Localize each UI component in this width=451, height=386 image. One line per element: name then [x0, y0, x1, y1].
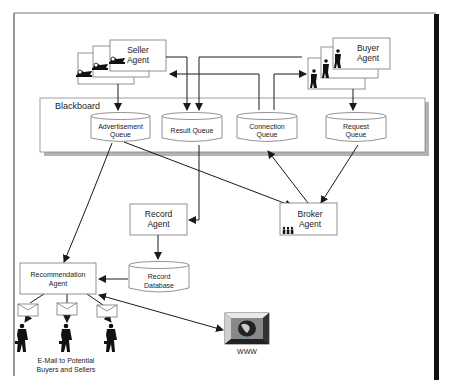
buyer-agent-line1: Buyer [357, 43, 379, 53]
recommendation-agent-line2: Agent [49, 280, 67, 288]
buyer-agent-line2: Agent [357, 53, 380, 63]
broker-agent-line2: Agent [299, 219, 322, 229]
advertisement-queue-line1: Advertisement [98, 123, 143, 130]
www-node: WWW [225, 313, 269, 355]
blackboard-architecture-diagram: Blackboard Advertisement Queue Result Qu… [0, 0, 451, 386]
record-database-line1: Record [148, 273, 171, 280]
record-agent-line1: Record [145, 209, 173, 219]
email-caption-line1: E-Mail to Potential [38, 357, 95, 364]
blackboard-label: Blackboard [55, 101, 100, 111]
request-queue-line1: Request [343, 123, 369, 131]
record-agent-line2: Agent [147, 219, 170, 229]
record-database: Record Database [129, 262, 189, 293]
record-agent: Record Agent [130, 204, 187, 235]
connection-queue-line2: Queue [256, 131, 277, 139]
email-recipients [15, 324, 117, 352]
broker-agent: Broker Agent [280, 203, 337, 235]
email-envelopes [18, 303, 117, 317]
buyer-agent: Buyer Agent [308, 38, 390, 89]
record-database-line2: Database [144, 282, 174, 289]
globe-monitor-icon [225, 313, 269, 344]
connection-queue-line1: Connection [249, 123, 285, 130]
seller-agent: Seller Agent [76, 40, 166, 84]
recommendation-agent: Recommendation Agent [20, 263, 96, 294]
connection-queue: Connection Queue [237, 113, 297, 142]
advertisement-queue-line2: Queue [110, 131, 131, 139]
seller-agent-line1: Seller [127, 45, 149, 55]
broker-agent-line1: Broker [297, 209, 322, 219]
www-label: WWW [237, 348, 257, 355]
businessman-with-briefcase-icon [104, 324, 117, 352]
advertisement-queue: Advertisement Queue [91, 113, 150, 142]
envelope-icon [97, 305, 117, 317]
result-queue: Result Queue [162, 113, 222, 142]
envelope-icon [18, 304, 38, 316]
seller-agent-line2: Agent [127, 55, 150, 65]
businessman-with-briefcase-icon [59, 324, 72, 352]
result-queue-label: Result Queue [171, 127, 214, 135]
people-group-icon [283, 227, 294, 234]
request-queue-line2: Queue [345, 131, 366, 139]
envelope-icon [57, 303, 77, 315]
recommendation-agent-line1: Recommendation [31, 271, 86, 278]
businessman-with-briefcase-icon [15, 324, 28, 352]
request-queue: Request Queue [326, 113, 386, 142]
email-caption-line2: Buyers and Sellers [37, 366, 96, 374]
